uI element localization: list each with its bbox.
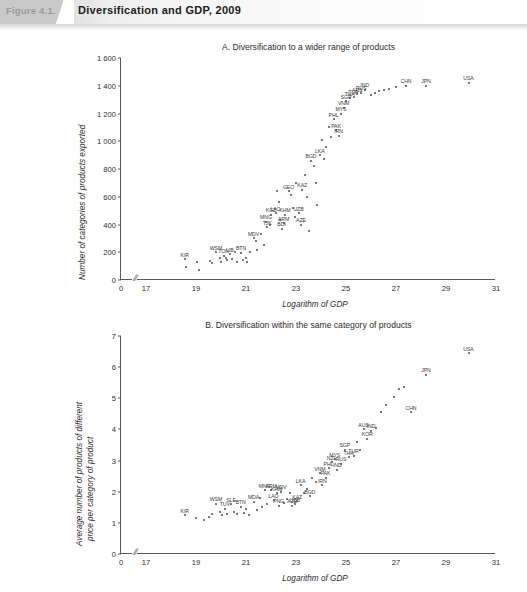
scatter-point-label: JPN [421,368,431,373]
scatter-point [298,212,300,214]
scatter-point [300,224,302,226]
scatter-point [220,261,222,263]
scatter-point-label: GEO [283,184,294,189]
scatter-point [253,501,255,503]
scatter-point [242,259,244,261]
y-axis-tick-mark [118,491,121,492]
y-axis-tick-mark [118,196,121,197]
scatter-point [226,513,228,515]
scatter-point [398,388,400,390]
scatter-point [425,85,427,87]
scatter-point-label: USA [463,76,473,81]
scatter-point [269,224,271,226]
scatter-point [425,374,427,376]
scatter-point [338,135,340,137]
scatter-point-label: LKA [296,479,306,484]
y-axis-tick-mark [118,141,121,142]
x-axis-tick-label: 0 [119,553,123,567]
scatter-point [266,503,268,505]
scatter-point [211,262,213,264]
scatter-point [405,85,407,87]
scatter-point-label: CHN [401,79,412,84]
scatter-point-label: LIB [226,248,234,253]
scatter-point [403,386,405,388]
scatter-point [195,517,197,519]
y-axis-tick-mark [118,398,121,399]
scatter-point-label: USA [463,346,473,351]
scatter-point [276,492,278,494]
y-axis-tick-mark [118,429,121,430]
scatter-point [375,427,377,429]
header-shadow [0,24,527,30]
x-axis-tick-label: 25 [342,553,350,567]
scatter-point [319,154,321,156]
scatter-point [301,189,303,191]
panel-b-y-axis-label-line2: price per category of product [85,437,96,541]
scatter-point-label: KAZ [297,183,307,188]
scatter-point [289,492,291,494]
x-axis-tick-label: 31 [492,279,500,293]
scatter-point [366,438,368,440]
scatter-point [345,100,347,102]
scatter-point [224,508,226,510]
scatter-point [259,497,261,499]
scatter-point [219,511,221,513]
scatter-point [211,513,213,515]
panel-b-plot-area: 0123456701719212325272931//KIRWSMTUVSLEB… [120,336,495,554]
scatter-point [333,118,335,120]
scatter-point-label: JPN [421,79,431,84]
y-axis-tick-mark [118,85,121,86]
scatter-point [316,204,318,206]
figure-header: Figure 4.1. Diversification and GDP, 200… [0,0,527,24]
scatter-point [249,251,251,253]
scatter-point [283,502,285,504]
scatter-point [336,469,338,471]
scatter-point [185,266,187,268]
scatter-point [260,233,262,235]
scatter-point [248,514,250,516]
y-axis-tick-mark [118,367,121,368]
y-axis-tick-mark [118,460,121,461]
scatter-point [264,489,266,491]
chart-panel-a: A. Diversification to a wider range of p… [0,34,527,312]
scatter-point [348,456,350,458]
x-axis-tick-label: 17 [142,553,150,567]
scatter-point [328,467,330,469]
panel-b-y-axis-label-line1: Average number of products of different [74,402,85,546]
scatter-point [294,503,296,505]
scatter-point [356,93,358,95]
scatter-point-label: RUS [336,457,347,462]
scatter-point [184,258,186,260]
scatter-point [349,97,351,99]
scatter-point [284,214,286,216]
scatter-point-label: ARM [278,216,289,221]
scatter-point [378,90,380,92]
x-axis-break-marker: // [131,547,139,557]
x-axis-break-marker: // [131,273,139,283]
scatter-point-label: IND [360,83,369,88]
x-axis-tick-label: 21 [242,279,250,293]
y-axis-tick-mark [118,522,121,523]
scatter-point-label: LKA [315,148,325,153]
scatter-point [323,158,325,160]
scatter-point [364,89,366,91]
x-axis-tick-label: 29 [442,553,450,567]
x-axis-tick-label: 27 [392,553,400,567]
scatter-point [236,513,238,515]
y-axis-tick-mark [118,113,121,114]
scatter-point [380,411,382,413]
y-axis-tick-mark [118,169,121,170]
x-axis-tick-label: 19 [192,553,200,567]
scatter-point [315,182,317,184]
scatter-point [395,86,397,88]
scatter-point [383,89,385,91]
panel-b-title: B. Diversification within the same categ… [0,320,527,330]
scatter-point [385,404,387,406]
scatter-point [280,491,282,493]
figure-number: Figure 4.1. [6,5,56,16]
scatter-point [306,196,308,198]
scatter-point-label: MDV [248,232,259,237]
scatter-point-label: PHL [329,112,339,117]
scatter-point [308,230,310,232]
scatter-point-label: MDA [248,495,259,500]
